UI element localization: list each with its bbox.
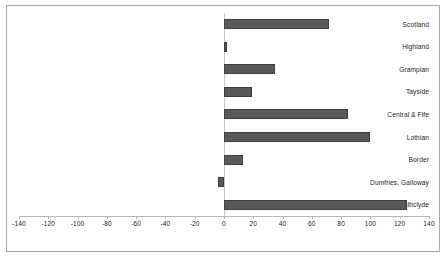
x-axis-tick-label: 60: [308, 220, 316, 227]
bar: [224, 132, 370, 142]
bar-row: Border: [19, 148, 429, 171]
category-label: Dumfries, Galloway: [229, 171, 429, 194]
x-axis-tick-mark: [370, 216, 371, 219]
plot-area: ScotlandHighlandGrampianTaysideCentral &…: [19, 13, 429, 216]
x-axis-tick-label: -20: [190, 220, 200, 227]
bar: [224, 87, 252, 97]
bar: [224, 200, 407, 210]
bar-row: Highland: [19, 36, 429, 59]
x-axis-tick-label: -80: [102, 220, 112, 227]
bar-row: Central & Fife: [19, 103, 429, 126]
x-axis-tick-mark: [165, 216, 166, 219]
x-axis-tick-label: 120: [394, 220, 405, 227]
x-axis-tick-label: 80: [337, 220, 345, 227]
x-axis-tick-label: 40: [279, 220, 287, 227]
x-axis-tick-label: 20: [250, 220, 258, 227]
category-label: Highland: [229, 36, 429, 59]
x-axis-tick-label: -120: [41, 220, 55, 227]
category-label: Tayside: [229, 81, 429, 104]
x-axis-tick-label: -40: [161, 220, 171, 227]
x-axis-tick-mark: [195, 216, 196, 219]
x-axis-tick-mark: [341, 216, 342, 219]
bar-row: Scotland: [19, 13, 429, 36]
bar-row: Lothian: [19, 126, 429, 149]
bar: [224, 64, 275, 74]
chart-frame: ScotlandHighlandGrampianTaysideCentral &…: [6, 5, 440, 252]
x-axis-tick-label: -140: [12, 220, 26, 227]
bar: [218, 177, 224, 187]
bar-row: Tayside: [19, 81, 429, 104]
x-axis-tick-label: -100: [71, 220, 85, 227]
x-axis-tick-mark: [107, 216, 108, 219]
bar-row: Dumfries, Galloway: [19, 171, 429, 194]
x-axis-tick-mark: [429, 216, 430, 219]
bar-row: Grampian: [19, 58, 429, 81]
x-axis-tick-mark: [312, 216, 313, 219]
x-axis-tick-label: 140: [423, 220, 434, 227]
x-axis-tick-label: 100: [365, 220, 376, 227]
x-axis-tick-mark: [224, 216, 225, 219]
x-axis-tick-mark: [136, 216, 137, 219]
bar: [224, 109, 348, 119]
x-axis-tick-mark: [78, 216, 79, 219]
x-axis-tick-mark: [283, 216, 284, 219]
x-axis-tick-label: 0: [222, 220, 226, 227]
x-axis-tick-mark: [253, 216, 254, 219]
x-axis-tick-group: -140-120-100-80-60-40-200204060801001201…: [19, 216, 429, 230]
category-label: Border: [229, 148, 429, 171]
bar-row: Strathclyde: [19, 193, 429, 216]
x-axis-tick-mark: [19, 216, 20, 219]
bar: [224, 155, 243, 165]
x-axis-tick-mark: [400, 216, 401, 219]
bar: [224, 42, 227, 52]
x-axis-tick-mark: [48, 216, 49, 219]
bar: [224, 19, 329, 29]
x-axis-tick-label: -60: [131, 220, 141, 227]
